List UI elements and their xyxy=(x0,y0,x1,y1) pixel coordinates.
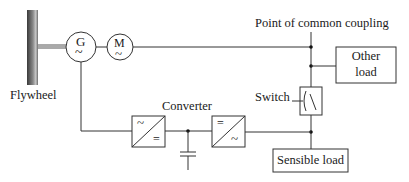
switch-label: Switch xyxy=(255,91,290,104)
junction-dot xyxy=(309,45,313,49)
capacitor-icon xyxy=(180,131,196,170)
motor-ac-symbol: ~ xyxy=(115,47,122,60)
other-load-line1: Other xyxy=(352,49,380,65)
other-load-line2: load xyxy=(355,65,377,81)
inverter-dc-symbol: = xyxy=(217,117,224,129)
converter-label: Converter xyxy=(162,100,212,113)
rectifier-dc-symbol: = xyxy=(153,133,160,145)
generator-ac-symbol: ~ xyxy=(75,46,83,60)
rectifier-ac-symbol: ~ xyxy=(137,116,144,129)
inverter-ac-symbol: ~ xyxy=(231,132,238,145)
gen-converter-line xyxy=(81,62,132,131)
switch-box xyxy=(300,87,322,115)
sensible-load-label: Sensible load xyxy=(273,149,348,172)
other-load-label: Other load xyxy=(336,47,396,83)
flywheel-label: Flywheel xyxy=(10,89,57,102)
flywheel-disc xyxy=(27,10,38,85)
pcc-label: Point of common coupling xyxy=(255,17,389,30)
